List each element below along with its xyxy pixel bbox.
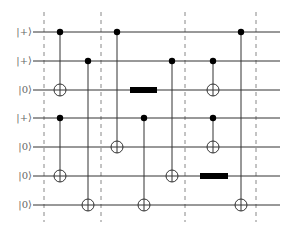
control-dot-icon: [141, 115, 147, 121]
control-dot-icon: [85, 58, 91, 64]
control-dot-icon: [169, 58, 175, 64]
control-dot-icon: [57, 29, 63, 35]
control-dot-icon: [114, 29, 120, 35]
control-dot-icon: [210, 58, 216, 64]
circuit-canvas: [0, 0, 283, 232]
gate-box: [130, 87, 157, 93]
control-dot-icon: [210, 115, 216, 121]
control-dot-icon: [57, 115, 63, 121]
gate-box: [200, 173, 228, 179]
control-dot-icon: [238, 29, 244, 35]
